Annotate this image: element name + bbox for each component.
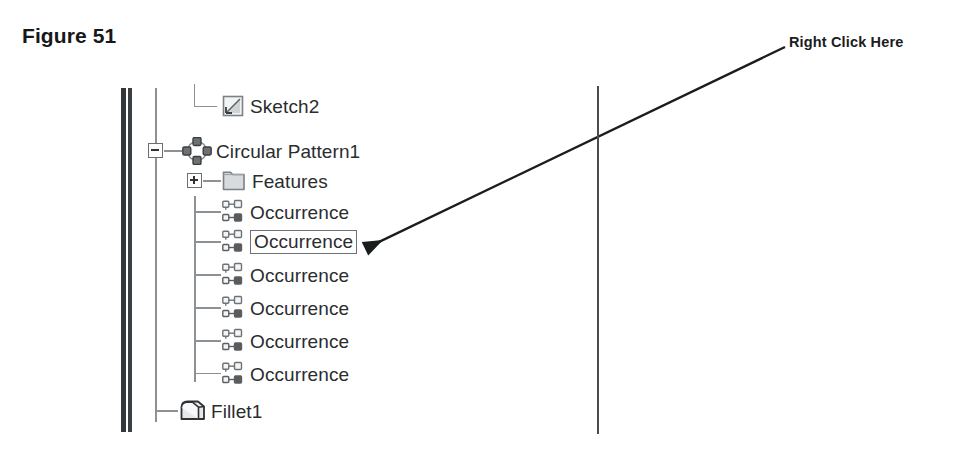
tree-row-label: Features [252, 172, 328, 191]
occurrence-icon [221, 199, 245, 225]
figure-page: Figure 51 Right Click Here Sketch2 [0, 0, 960, 458]
annotation-label-right-click-here: Right Click Here [789, 34, 903, 50]
tree-root-line [155, 88, 157, 422]
tree-row-occurrence-5[interactable]: Occurrence [221, 326, 349, 356]
figure-caption: Figure 51 [22, 24, 116, 48]
tree-row-label: Occurrence [250, 266, 349, 285]
tree-row-occurrence-3[interactable]: Occurrence [221, 260, 349, 290]
panel-edge-bar-inner [128, 88, 132, 432]
tree-connector-stub-fillet1 [156, 410, 178, 412]
folder-icon [221, 169, 247, 193]
tree-row-label-selected: Occurrence [250, 230, 357, 254]
tree-connector-stub-occurrence-4 [195, 307, 221, 309]
tree-row-label: Sketch2 [250, 97, 319, 116]
tree-row-label: Occurrence [250, 365, 349, 384]
occurrence-icon [221, 295, 245, 321]
occurrence-icon [221, 328, 245, 354]
tree-row-occurrence-6[interactable]: Occurrence [221, 359, 349, 389]
tree-row-fillet1[interactable]: Fillet1 [178, 396, 262, 426]
tree-row-label: Fillet1 [211, 402, 262, 421]
occurrence-icon [221, 262, 245, 288]
tree-row-features[interactable]: Features [221, 166, 328, 196]
tree-connector-stub-occurrence-1 [195, 211, 221, 213]
panel-right-divider [597, 86, 599, 434]
tree-collapse-toggle-circular-pattern1[interactable] [148, 143, 163, 158]
occurrence-icon [221, 229, 245, 255]
tree-connector-elbow-occurrence-6 [194, 350, 221, 374]
tree-connector-elbow-sketch2 [194, 84, 217, 107]
tree-row-circular-pattern1[interactable]: Circular Pattern1 [182, 136, 360, 166]
tree-row-occurrence-2-selected[interactable]: Occurrence [221, 227, 357, 257]
feature-tree-panel: Sketch2 Circular Pattern1 [118, 88, 608, 436]
tree-connector-stub-features [203, 180, 221, 182]
circular-pattern-icon [182, 137, 212, 165]
sketch-icon [221, 94, 245, 118]
occurrence-icon [221, 361, 245, 387]
tree-expand-toggle-features[interactable] [187, 173, 202, 188]
tree-connector-stub-circular-pattern1 [164, 150, 182, 152]
tree-connector-stub-occurrence-3 [195, 274, 221, 276]
tree-row-label: Occurrence [250, 332, 349, 351]
tree-row-occurrence-1[interactable]: Occurrence [221, 197, 349, 227]
tree-row-sketch2[interactable]: Sketch2 [221, 91, 319, 121]
panel-edge-bar-outer [121, 88, 126, 432]
tree-row-label: Occurrence [250, 299, 349, 318]
tree-row-label: Circular Pattern1 [216, 142, 360, 161]
tree-connector-stub-occurrence-5 [195, 340, 221, 342]
tree-connector-stub-occurrence-2 [195, 241, 221, 243]
fillet-icon [178, 397, 208, 425]
tree-row-occurrence-4[interactable]: Occurrence [221, 293, 349, 323]
tree-row-label: Occurrence [250, 203, 349, 222]
